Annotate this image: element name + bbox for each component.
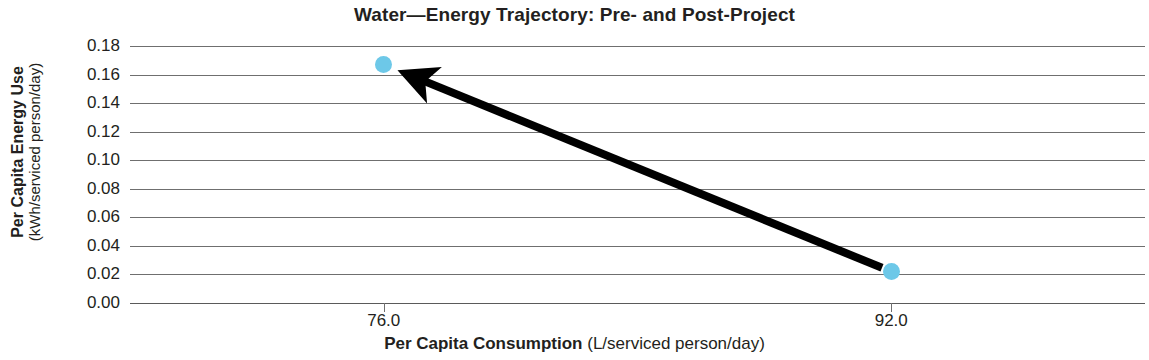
chart-figure: Water—Energy Trajectory: Pre- and Post-P… [0,0,1149,360]
chart-title: Water—Energy Trajectory: Pre- and Post-P… [0,4,1149,26]
y-tick-label: 0.06 [56,207,120,227]
plot-area [130,46,1145,303]
y-tick-label: 0.18 [56,36,120,56]
gridline [130,189,1145,190]
x-tick-label: 76.0 [339,311,429,331]
gridline [130,75,1145,76]
x-axis-line [130,303,1145,304]
y-tick-label: 0.00 [56,293,120,313]
data-point [883,263,900,280]
gridline [130,46,1145,47]
gridline [130,160,1145,161]
x-axis-title-unit: (L/serviced person/day) [587,334,765,353]
y-axis-title-unit: (kWh/serviced person/day) [27,18,44,286]
gridline [130,274,1145,275]
y-tick-label: 0.10 [56,150,120,170]
y-axis-tick-labels: 0.000.020.040.060.080.100.120.140.160.18 [56,46,120,303]
y-tick-label: 0.04 [56,236,120,256]
y-tick-label: 0.14 [56,93,120,113]
gridline [130,217,1145,218]
y-tick-label: 0.02 [56,264,120,284]
y-axis-title: Per Capita Energy Use (kWh/serviced pers… [9,18,53,286]
y-tick-label: 0.08 [56,179,120,199]
x-axis-title: Per Capita Consumption (L/serviced perso… [0,334,1149,354]
y-tick-label: 0.16 [56,65,120,85]
x-axis-title-main: Per Capita Consumption [384,334,582,353]
gridline [130,103,1145,104]
y-tick-label: 0.12 [56,122,120,142]
x-tick-label: 92.0 [846,311,936,331]
gridline [130,246,1145,247]
y-axis-title-main: Per Capita Energy Use [9,18,27,286]
data-point [375,56,392,73]
gridline [130,132,1145,133]
